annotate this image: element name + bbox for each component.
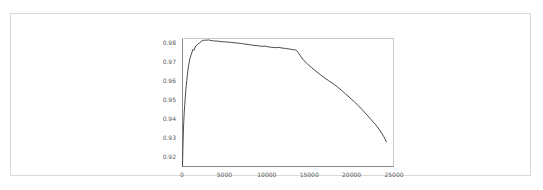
y-tick-label: 0.98	[148, 40, 176, 46]
data-series-group	[183, 40, 387, 166]
y-tick-label: 0.95	[148, 97, 176, 103]
x-tick-label: 0	[180, 172, 184, 178]
y-tick-label: 0.93	[148, 135, 176, 141]
x-tick-label: 10000	[257, 172, 276, 178]
series-line	[183, 40, 387, 166]
y-tick-label: 0.96	[148, 78, 176, 84]
figure-frame: 0.920.930.940.950.960.970.98 05000100001…	[10, 13, 531, 176]
x-tick-label: 15000	[300, 172, 319, 178]
x-tick-label: 25000	[384, 172, 403, 178]
x-tick-label: 20000	[342, 172, 361, 178]
plot-svg	[182, 38, 394, 167]
x-tick-label: 5000	[217, 172, 232, 178]
y-tick-label: 0.94	[148, 116, 176, 122]
screenshot-root: 0.920.930.940.950.960.970.98 05000100001…	[0, 0, 543, 190]
y-tick-label: 0.97	[148, 59, 176, 65]
y-tick-label: 0.92	[148, 154, 176, 160]
plot-area: 0.920.930.940.950.960.970.98 05000100001…	[182, 38, 394, 167]
